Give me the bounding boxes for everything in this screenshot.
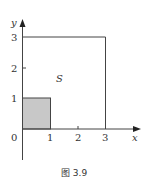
x-tick-label-1: 1 (47, 132, 53, 143)
y-tick-label-3: 3 (11, 32, 17, 43)
x-axis-label: x (132, 132, 138, 143)
x-tick-label-2: 2 (75, 132, 81, 143)
unit-square (23, 98, 51, 129)
origin-label: 0 (11, 132, 17, 143)
y-tick-label-1: 1 (11, 93, 17, 104)
region-label: S (56, 73, 63, 84)
y-tick-label-2: 2 (11, 63, 17, 74)
figure-canvas: y 3 2 1 0 1 2 3 x S 图 3.9 (0, 0, 151, 182)
y-axis-label: y (10, 17, 17, 28)
figure-caption: 图 3.9 (61, 168, 87, 178)
x-tick-label-3: 3 (102, 132, 108, 143)
y-axis-arrow-icon (20, 19, 26, 27)
